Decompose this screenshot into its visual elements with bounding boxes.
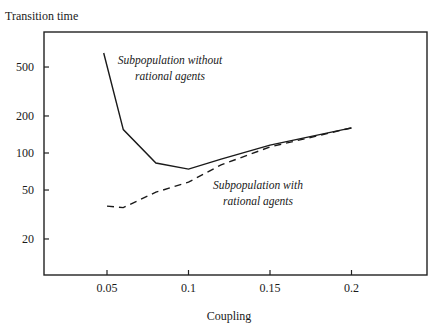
- y-tick-label: 500: [16, 60, 34, 74]
- x-axis-label: Coupling: [207, 309, 252, 323]
- x-axis-ticks: 0.050.10.150.2: [97, 270, 360, 295]
- plot-frame: [44, 32, 427, 275]
- y-tick-label: 20: [22, 232, 34, 246]
- annotation-without-line1: Subpopulation without: [118, 54, 223, 67]
- y-tick-label: 100: [16, 146, 34, 160]
- y-axis-label: Transition time: [5, 9, 78, 23]
- y-tick-label: 50: [22, 183, 34, 197]
- x-tick-label: 0.2: [344, 281, 359, 295]
- x-tick-label: 0.15: [260, 281, 281, 295]
- y-tick-label: 200: [16, 109, 34, 123]
- chart: Transition time 2050100200500 0.050.10.1…: [0, 0, 446, 331]
- annotation-with-line1: Subpopulation with: [213, 179, 303, 192]
- x-tick-label: 0.1: [181, 281, 196, 295]
- annotation-without-line2: rational agents: [135, 70, 205, 83]
- x-tick-label: 0.05: [97, 281, 118, 295]
- annotation-with-line2: rational agents: [223, 195, 293, 208]
